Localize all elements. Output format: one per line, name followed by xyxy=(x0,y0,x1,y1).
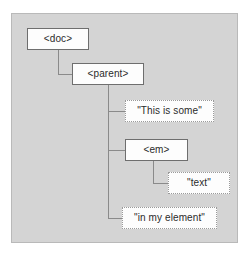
text-node-text1: "This is some" xyxy=(125,100,214,122)
text-node-text2: "text" xyxy=(168,172,230,194)
element-node-parent: <parent> xyxy=(72,63,144,85)
element-node-doc: <doc> xyxy=(27,28,89,50)
text-node-text3: "in my element" xyxy=(122,207,217,229)
node-label-doc: <doc> xyxy=(44,34,72,44)
node-label-text1: "This is some" xyxy=(137,106,202,116)
dom-tree-figure: <doc><parent>"This is some"<em>"text""in… xyxy=(0,0,248,255)
node-label-parent: <parent> xyxy=(88,69,129,79)
node-label-text3: "in my element" xyxy=(134,213,205,223)
element-node-em: <em> xyxy=(125,139,188,161)
node-label-em: <em> xyxy=(144,145,170,155)
node-label-text2: "text" xyxy=(187,178,211,188)
